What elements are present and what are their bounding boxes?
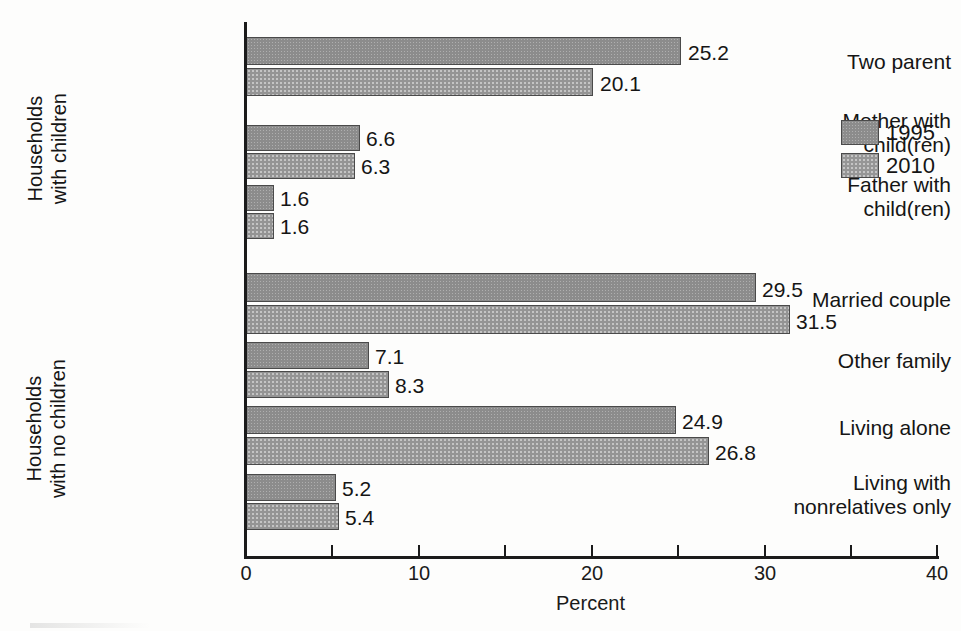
category-label-line-2: child(ren) [863,197,951,220]
x-tick-label-40: 40 [926,562,948,585]
x-tick-5 [331,545,333,557]
group-label-households-with-children: Households with children [24,49,71,249]
bar-other-family-2010[interactable] [246,371,389,398]
category-label-line-1: Married couple [812,288,951,311]
x-tick-15 [504,545,506,557]
bar-mother-1995[interactable] [246,125,360,151]
group-label-households-with-no-children: Households with no children [23,319,70,539]
x-tick-label-10: 10 [408,562,430,585]
bar-value-nonrelatives-2010: 5.4 [345,506,374,530]
bar-value-married-couple-2010: 31.5 [796,310,837,334]
x-tick-0 [245,545,247,557]
bar-value-father-2010: 1.6 [280,215,309,239]
bar-value-living-alone-1995: 24.9 [682,410,723,434]
bar-value-married-couple-1995: 29.5 [762,278,803,302]
caption-fragment [30,623,150,628]
x-tick-25 [677,545,679,557]
y-axis-line [244,22,247,558]
category-label-living-with-nonrelatives: Living with nonrelatives only [721,471,961,518]
bar-living-alone-1995[interactable] [246,406,676,434]
category-label-line-1: Living with [853,471,951,494]
legend-label-2010: 2010 [886,153,935,179]
x-tick-label-20: 20 [581,562,603,585]
bar-two-parent-1995[interactable] [246,37,681,65]
bar-value-father-1995: 1.6 [280,187,309,211]
group-label-line-1: Households [24,49,48,249]
x-tick-20 [591,545,593,557]
bar-married-couple-1995[interactable] [246,273,756,302]
bar-mother-2010[interactable] [246,153,355,179]
legend-swatch-icon-2010 [841,153,879,178]
legend-item-2010[interactable]: 2010 [841,151,935,180]
category-label-living-alone: Living alone [721,416,961,440]
bar-other-family-1995[interactable] [246,342,369,369]
bar-value-two-parent-1995: 25.2 [688,41,729,65]
legend-item-1995[interactable]: 1995 [841,118,935,147]
bar-two-parent-2010[interactable] [246,68,593,96]
category-label-two-parent: Two parent [721,50,961,74]
bar-living-alone-2010[interactable] [246,437,709,465]
category-label-line-1: Two parent [847,50,951,73]
bar-value-other-family-1995: 7.1 [375,345,404,369]
x-tick-label-0: 0 [240,562,251,585]
bar-value-mother-1995: 6.6 [366,127,395,151]
bar-value-two-parent-2010: 20.1 [600,72,641,96]
x-tick-40 [936,545,938,557]
bar-father-1995[interactable] [246,185,274,211]
category-label-line-1: Other family [838,349,951,372]
x-tick-35 [850,545,852,557]
legend-swatch-icon-1995 [841,120,879,145]
x-tick-label-30: 30 [754,562,776,585]
category-label-line-1: Living alone [839,416,951,439]
legend: 1995 2010 [841,118,935,184]
group-label-line-2: with children [48,49,72,249]
bar-value-mother-2010: 6.3 [361,155,390,179]
bar-value-nonrelatives-1995: 5.2 [342,477,371,501]
x-axis-title: Percent [0,592,961,615]
category-label-line-2: nonrelatives only [793,495,951,518]
bar-nonrelatives-2010[interactable] [246,503,339,530]
legend-label-1995: 1995 [886,120,935,146]
x-tick-30 [764,545,766,557]
group-label-line-2: with no children [47,319,71,539]
bar-father-2010[interactable] [246,213,274,239]
x-axis-title-text: Percent [556,592,625,614]
bar-married-couple-2010[interactable] [246,305,790,334]
group-label-line-1: Households [23,319,47,539]
category-label-other-family: Other family [721,349,961,373]
bar-value-living-alone-2010: 26.8 [715,441,756,465]
bar-value-other-family-2010: 8.3 [395,374,424,398]
bar-nonrelatives-1995[interactable] [246,474,336,501]
x-tick-10 [418,545,420,557]
bar-chart: Households with children Households with… [0,0,961,631]
